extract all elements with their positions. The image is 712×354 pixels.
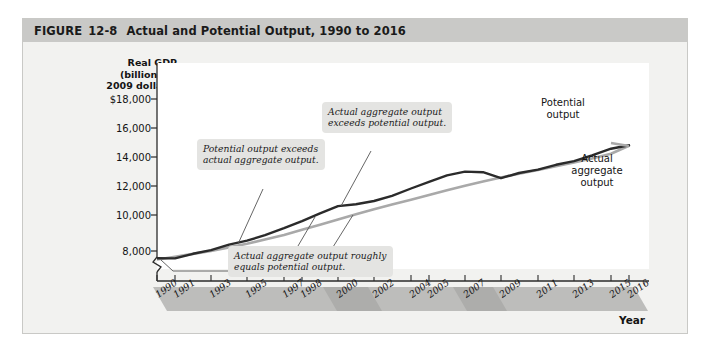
y-axis-title-line-1: Real GDP	[67, 57, 177, 69]
leader-potential-exceeds	[238, 189, 263, 244]
callout-actual-equals-potential: Actual aggregate output roughly equals p…	[228, 246, 393, 277]
x-axis-title: Year	[619, 314, 645, 326]
y-tick-label-10000: 10,000	[79, 210, 151, 221]
series-label-actual-output: Actual aggregate output	[557, 153, 637, 189]
potential-label-connector	[611, 143, 629, 146]
x-tick-label-2002: 2002	[370, 277, 396, 300]
callout-2-line-2: exceeds potential output.	[328, 117, 446, 128]
callout-1-line-1: Potential output exceeds	[203, 143, 319, 154]
potential-label-line-2: output	[523, 109, 603, 121]
figure-number: 12-8	[88, 24, 117, 38]
actual-label-line-2: aggregate	[557, 165, 637, 177]
actual-label-line-3: output	[557, 177, 637, 189]
y-axis-title: Real GDP (billions of 2009 dollars)	[67, 57, 177, 92]
x-tick-label-2000: 2000	[334, 277, 360, 300]
x-tick-label-2007: 2007	[461, 277, 487, 300]
callout-3-line-2: equals potential output.	[234, 261, 387, 272]
y-axis-break-icon	[153, 257, 161, 272]
figure-root: FIGURE12-8Actual and Potential Output, 1…	[0, 0, 712, 354]
y-tick-label-12000: 12,000	[79, 181, 151, 192]
page-title: FIGURE12-8Actual and Potential Output, 1…	[23, 24, 406, 38]
y-tick-label-14000: 14,000	[79, 152, 151, 163]
y-tick-label-8000: 8,000	[79, 246, 151, 257]
figure-title-bar: FIGURE12-8Actual and Potential Output, 1…	[23, 19, 687, 42]
leader-equals-left-2	[161, 260, 173, 271]
leader-actual-exceeds	[341, 151, 371, 206]
y-tick-label-16000: 16,000	[79, 123, 151, 134]
callout-1-line-2: actual aggregate output.	[203, 154, 319, 165]
figure-label: FIGURE	[34, 24, 82, 38]
figure-title: Actual and Potential Output, 1990 to 201…	[126, 24, 406, 38]
figure-panel: FIGURE12-8Actual and Potential Output, 1…	[22, 18, 688, 334]
x-tick-label-1993: 1993	[207, 277, 233, 300]
callout-2-line-1: Actual aggregate output	[328, 106, 446, 117]
callout-potential-exceeds-actual: Potential output exceeds actual aggregat…	[197, 139, 325, 170]
y-axis-title-line-2: (billions of	[67, 69, 177, 81]
callout-3-line-1: Actual aggregate output roughly	[234, 250, 387, 261]
x-tick-label-2011: 2011	[534, 277, 560, 300]
callout-actual-exceeds-potential: Actual aggregate output exceeds potentia…	[322, 102, 452, 133]
series-label-connectors	[611, 143, 629, 146]
series-label-potential-output: Potential output	[523, 97, 603, 121]
actual-label-line-1: Actual	[557, 153, 637, 165]
x-tick-label-2013: 2013	[570, 277, 596, 300]
y-axis-title-line-3: 2009 dollars)	[67, 80, 177, 92]
potential-label-line-1: Potential	[523, 97, 603, 109]
y-tick-label-18000: $18,000	[79, 94, 151, 105]
x-tick-label-2009: 2009	[497, 277, 523, 300]
x-tick-label-1995: 1995	[243, 277, 269, 300]
